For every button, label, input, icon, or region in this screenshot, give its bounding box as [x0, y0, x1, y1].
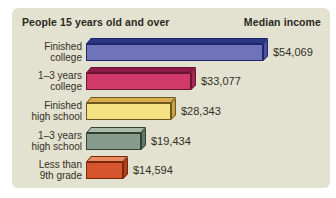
category-label-line2: high school [14, 141, 82, 152]
category-label: Finished high school [14, 100, 82, 122]
bar-front-face [86, 44, 263, 61]
chart-panel: People 15 years old and over Median inco… [12, 8, 330, 188]
category-label: 1–3 years college [14, 70, 82, 92]
category-label-line1: Finished [14, 100, 82, 111]
bar-value-label: $19,434 [151, 133, 191, 150]
bar-row-1-3-years-college: 1–3 years college $33,077 [12, 65, 330, 94]
chart-figure: People 15 years old and over Median inco… [0, 0, 336, 198]
header-left-title: People 15 years old and over [22, 16, 170, 28]
category-label-line2: college [14, 81, 82, 92]
bar-row-less-than-9th-grade: Less than 9th grade $14,594 [12, 154, 330, 183]
bar-front-face [86, 133, 141, 150]
bar-value-label: $33,077 [201, 73, 241, 90]
bar-side-face [263, 39, 268, 61]
bar-row-finished-college: Finished college $54,069 [12, 36, 330, 65]
bar-value-label: $28,343 [181, 103, 221, 120]
bar-side-face [123, 157, 128, 179]
bar-row-1-3-years-high-school: 1–3 years high school $19,434 [12, 125, 330, 154]
category-label: Finished college [14, 41, 82, 63]
bar-row-finished-high-school: Finished high school $28,343 [12, 95, 330, 124]
category-label-line1: 1–3 years [14, 70, 82, 81]
bar-front-face [86, 103, 171, 120]
bar-side-face [141, 128, 146, 150]
category-label-line2: college [14, 52, 82, 63]
category-label-line1: Less than [14, 159, 82, 170]
bar-value-label: $14,594 [133, 162, 173, 179]
header-right-title: Median income [244, 16, 321, 28]
chart-header: People 15 years old and over Median inco… [22, 16, 321, 28]
category-label-line2: high school [14, 111, 82, 122]
bar-value-label: $54,069 [273, 44, 313, 61]
category-label-line2: 9th grade [14, 170, 82, 181]
bar-front-face [86, 162, 123, 179]
bar-front-face [86, 73, 191, 90]
bar-side-face [191, 68, 196, 90]
bar-side-face [171, 98, 176, 120]
category-label-line1: 1–3 years [14, 130, 82, 141]
category-label: 1–3 years high school [14, 130, 82, 152]
category-label: Less than 9th grade [14, 159, 82, 181]
category-label-line1: Finished [14, 41, 82, 52]
